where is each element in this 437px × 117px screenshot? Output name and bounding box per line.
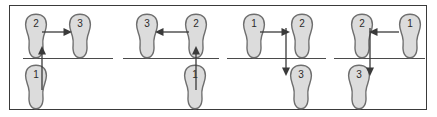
panel-4: 2 1 3 <box>331 6 428 109</box>
arrow-up-panel1-step1-to-step2 <box>35 46 49 90</box>
arrow-up-panel2-step1-to-step2 <box>189 46 203 90</box>
arrow-down-panel3-step2-to-step3 <box>279 28 293 76</box>
arrow-down-panel4-step2-to-step3 <box>363 28 377 76</box>
arrow-left-panel2-step2-to-step3 <box>155 26 189 38</box>
panel-3: 1 2 3 <box>224 6 331 109</box>
panel-1: 2 3 1 <box>10 6 117 109</box>
footprint-panel4-step1: 1 <box>397 13 423 59</box>
footwork-step-diagram: 2 3 1 <box>0 0 437 117</box>
diagram-frame: 2 3 1 <box>9 5 427 110</box>
footprint-label: 1 <box>397 18 423 30</box>
panel-2: 3 2 1 <box>117 6 224 109</box>
arrow-right-panel1-step2-to-step3 <box>42 26 72 38</box>
